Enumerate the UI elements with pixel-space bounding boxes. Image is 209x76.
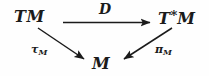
arrow-label-pi-subscript: M bbox=[163, 47, 172, 57]
node-tm: TM bbox=[14, 9, 45, 25]
node-m-base: M bbox=[92, 54, 110, 73]
arrow-label-pi-base: π bbox=[155, 43, 163, 56]
arrow-label-tau-m: τM bbox=[31, 44, 47, 56]
commutative-diagram: TM T*M M D τM πM bbox=[0, 0, 209, 76]
node-m: M bbox=[92, 56, 110, 72]
node-tm-base: T bbox=[14, 7, 26, 26]
node-tm-suffix: M bbox=[26, 7, 44, 26]
arrow-label-d: D bbox=[99, 2, 111, 16]
node-tstarm-suffix: M bbox=[177, 9, 195, 28]
node-tstarm: T*M bbox=[158, 9, 195, 27]
arrow-label-d-text: D bbox=[99, 1, 111, 17]
node-tstarm-base: T bbox=[158, 9, 170, 28]
arrow-label-pi-m: πM bbox=[155, 44, 172, 56]
arrow-label-tau-subscript: M bbox=[38, 47, 47, 57]
